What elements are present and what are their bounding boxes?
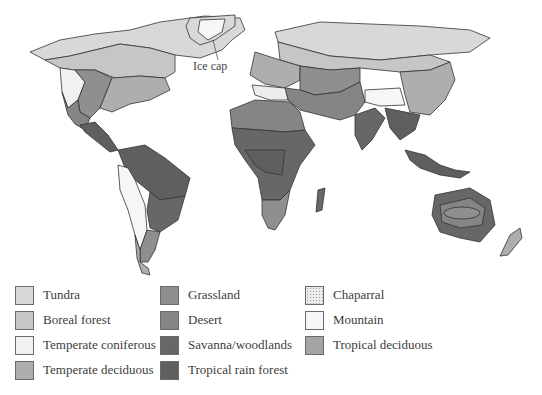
legend-item-chaparral: Chaparral bbox=[305, 285, 384, 305]
legend-item-temperate-coniferous: Temperate coniferous bbox=[15, 335, 156, 355]
legend-item-mountain: Mountain bbox=[305, 310, 384, 330]
ice-cap-label: Ice cap bbox=[193, 59, 227, 74]
legend-item-tundra: Tundra bbox=[15, 285, 80, 305]
region-india-savanna bbox=[355, 108, 385, 150]
region-madagascar bbox=[316, 188, 325, 212]
legend-item-boreal-forest: Boreal forest bbox=[15, 310, 111, 330]
legend-label: Tundra bbox=[43, 287, 80, 303]
swatch-grassland bbox=[160, 286, 179, 305]
swatch-tropical-rain-forest bbox=[160, 361, 179, 380]
legend-item-grassland: Grassland bbox=[160, 285, 240, 305]
swatch-mountain bbox=[305, 311, 324, 330]
legend-item-tropical-rain-forest: Tropical rain forest bbox=[160, 360, 288, 380]
region-north-america-deciduous bbox=[100, 76, 170, 112]
swatch-desert bbox=[160, 311, 179, 330]
legend-label: Mountain bbox=[333, 312, 384, 328]
legend-label: Savanna/woodlands bbox=[188, 337, 292, 353]
legend-item-desert: Desert bbox=[160, 310, 222, 330]
legend-label: Grassland bbox=[188, 287, 240, 303]
swatch-tundra bbox=[15, 286, 34, 305]
region-new-zealand bbox=[500, 228, 522, 256]
legend-label: Tropical rain forest bbox=[188, 362, 288, 378]
legend-label: Desert bbox=[188, 312, 222, 328]
swatch-boreal-forest bbox=[15, 311, 34, 330]
legend-label: Chaparral bbox=[333, 287, 384, 303]
legend-item-savanna-woodlands: Savanna/woodlands bbox=[160, 335, 292, 355]
region-australia-interior bbox=[444, 207, 480, 219]
swatch-chaparral bbox=[305, 286, 324, 305]
world-biome-map bbox=[0, 0, 542, 280]
region-indonesia bbox=[405, 150, 470, 178]
legend: Tundra Boreal forest Temperate coniferou… bbox=[0, 280, 542, 395]
region-central-america bbox=[80, 122, 118, 152]
legend-label: Temperate coniferous bbox=[43, 337, 156, 353]
legend-label: Tropical deciduous bbox=[333, 337, 433, 353]
legend-label: Temperate deciduous bbox=[43, 362, 154, 378]
region-tibet-mountain bbox=[365, 88, 405, 106]
legend-label: Boreal forest bbox=[43, 312, 111, 328]
swatch-savanna-woodlands bbox=[160, 336, 179, 355]
legend-item-temperate-deciduous: Temperate deciduous bbox=[15, 360, 154, 380]
legend-item-tropical-deciduous: Tropical deciduous bbox=[305, 335, 433, 355]
swatch-temperate-deciduous bbox=[15, 361, 34, 380]
swatch-tropical-deciduous bbox=[305, 336, 324, 355]
swatch-temperate-coniferous bbox=[15, 336, 34, 355]
